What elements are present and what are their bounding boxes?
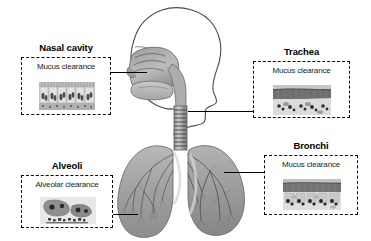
respiratory-clearance-diagram: Nasal cavity Mucus clearance — [0, 0, 371, 241]
micrograph-tracheal-epithelium-section — [273, 85, 331, 115]
trachea — [174, 106, 187, 150]
callout-title-bronchi: Bronchi — [264, 140, 358, 151]
callout-mechanism-bronchi: Mucus clearance — [265, 160, 357, 169]
callout-title-nasal-cavity: Nasal cavity — [21, 42, 111, 53]
callout-box-alveoli: Alveolar clearance — [21, 175, 113, 228]
micrograph-ciliated-pseudostratified-epithelium — [39, 82, 95, 110]
callout-mechanism-trachea: Mucus clearance — [254, 66, 349, 75]
nasal-cavity-structure — [127, 47, 186, 112]
lungs-with-bronchial-tree — [118, 146, 245, 238]
anatomy-illustration — [108, 2, 268, 240]
micrograph-alveolar-macrophage — [40, 197, 96, 224]
callout-mechanism-nasal-cavity: Mucus clearance — [22, 62, 110, 71]
connector-alveoli — [113, 214, 138, 215]
connector-nasal-cavity — [111, 72, 147, 73]
connector-bronchi — [224, 172, 265, 173]
callout-title-trachea: Trachea — [253, 46, 350, 57]
callout-mechanism-alveoli: Alveolar clearance — [22, 180, 112, 189]
connector-trachea — [188, 111, 254, 112]
micrograph-bronchial-epithelium-section — [283, 179, 341, 210]
callout-box-nasal-cavity: Mucus clearance — [21, 57, 111, 115]
callout-box-bronchi: Mucus clearance — [264, 155, 358, 215]
callout-box-trachea: Mucus clearance — [253, 61, 350, 118]
callout-title-alveoli: Alveoli — [21, 160, 113, 171]
